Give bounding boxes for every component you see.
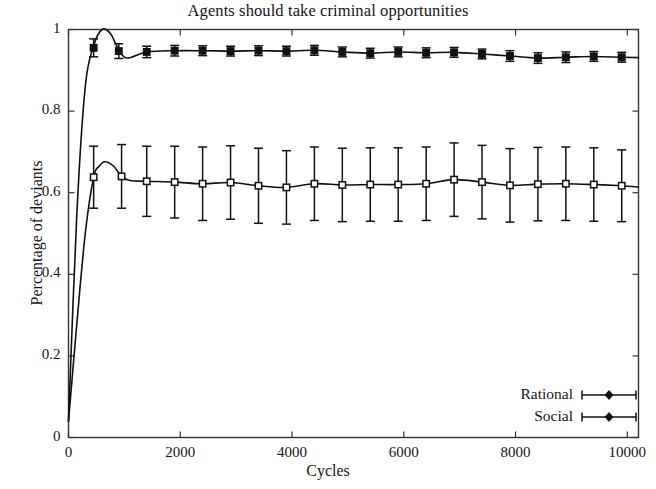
data-point-marker xyxy=(199,48,205,54)
data-point-marker xyxy=(367,50,373,56)
data-point-marker xyxy=(395,181,401,187)
data-point-marker xyxy=(423,181,429,187)
data-point-marker xyxy=(563,54,569,60)
legend-sample-marker xyxy=(605,413,613,422)
data-point-marker xyxy=(90,45,96,51)
data-point-marker xyxy=(535,55,541,61)
data-point-marker xyxy=(311,47,317,53)
data-point-marker xyxy=(255,183,261,189)
data-point-marker xyxy=(144,178,150,184)
data-point-marker xyxy=(90,174,96,180)
data-point-marker xyxy=(171,179,177,185)
data-series-group xyxy=(69,29,639,421)
series-social xyxy=(69,143,639,421)
data-point-marker xyxy=(339,49,345,55)
data-point-marker xyxy=(395,49,401,55)
data-point-marker xyxy=(171,48,177,54)
series-line xyxy=(69,162,639,421)
data-point-marker xyxy=(423,50,429,56)
data-point-marker xyxy=(591,53,597,59)
data-point-marker xyxy=(227,48,233,54)
legend-markers xyxy=(582,391,636,422)
data-point-marker xyxy=(451,49,457,55)
data-point-marker xyxy=(283,184,289,190)
data-point-marker xyxy=(507,53,513,59)
data-point-marker xyxy=(311,181,317,187)
data-point-marker xyxy=(116,48,122,54)
axes-frame xyxy=(69,30,639,438)
legend-sample-marker xyxy=(605,391,613,400)
series-line xyxy=(69,29,639,421)
data-point-marker xyxy=(451,176,457,182)
data-point-marker xyxy=(144,49,150,55)
series-rational xyxy=(69,29,639,421)
data-point-marker xyxy=(591,181,597,187)
data-point-marker xyxy=(118,173,124,179)
data-point-marker xyxy=(619,183,625,189)
data-point-marker xyxy=(563,181,569,187)
data-point-marker xyxy=(255,48,261,54)
data-point-marker xyxy=(227,179,233,185)
plot-border xyxy=(69,30,639,438)
data-point-marker xyxy=(479,51,485,57)
axis-ticks xyxy=(69,30,639,438)
data-point-marker xyxy=(339,182,345,188)
legend-item-label: Rational xyxy=(373,385,573,403)
chart-figure: Agents should take criminal opportunitie… xyxy=(0,0,656,489)
data-point-marker xyxy=(619,54,625,60)
data-point-marker xyxy=(367,181,373,187)
data-point-marker xyxy=(479,179,485,185)
data-point-marker xyxy=(535,181,541,187)
legend-item-label: Social xyxy=(373,407,573,425)
data-point-marker xyxy=(507,182,513,188)
data-point-marker xyxy=(283,48,289,54)
data-point-marker xyxy=(199,181,205,187)
